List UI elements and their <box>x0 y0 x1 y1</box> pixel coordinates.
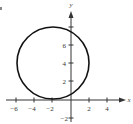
x-tick-label: 2 <box>87 105 91 113</box>
y-tick-label: 2 <box>63 78 67 86</box>
x-tick-label: −6 <box>10 105 18 113</box>
y-tick-label: 6 <box>63 42 67 50</box>
coordinate-plane: −6 −4 −2 2 4 6 4 2 −2 y x <box>0 0 133 124</box>
x-axis-arrow-icon <box>119 98 126 103</box>
y-axis <box>69 11 74 122</box>
y-axis-label: y <box>68 1 73 9</box>
x-axis-label: x <box>126 96 131 104</box>
circle-curve <box>17 27 89 99</box>
y-tick-label: 4 <box>63 60 67 68</box>
x-axis <box>6 98 126 103</box>
x-tick-label: −2 <box>46 105 54 113</box>
x-tick-label: −4 <box>28 105 36 113</box>
y-tick-label: −2 <box>61 115 69 123</box>
y-axis-arrow-icon <box>69 11 74 18</box>
x-tick-label: 4 <box>105 105 109 113</box>
corner-mark <box>0 7 2 10</box>
